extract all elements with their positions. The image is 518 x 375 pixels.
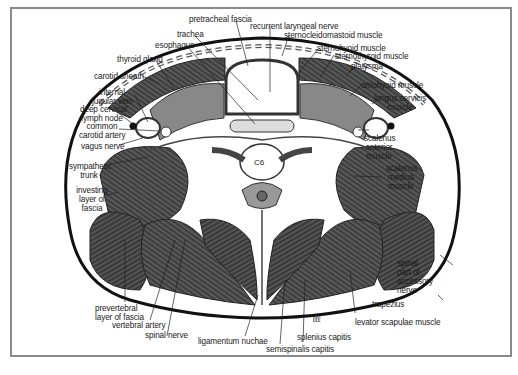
label-investing-layer-of-fascia: investinglayer offascia — [76, 186, 108, 213]
label-line: fascia — [82, 204, 103, 213]
label-sternocleidomastoid-muscle: sternocleidomastoid muscle — [284, 31, 382, 40]
label-omohyoid-muscle: omohyoid muscle — [361, 81, 423, 90]
label-common-carotid-artery: commoncarotid artery — [79, 122, 125, 140]
label-line: muscle — [366, 152, 391, 161]
label-c6-vertebra: C6 — [254, 158, 264, 167]
label-line: longus cervicis — [374, 94, 426, 103]
label-line: muscle — [388, 182, 413, 191]
label-line: sympathetic — [69, 162, 112, 171]
label-vagus-nerve: vagus nerve — [81, 142, 125, 151]
label-line: part of — [397, 268, 420, 277]
label-line: common — [87, 122, 118, 131]
label-line: layer of — [79, 195, 105, 204]
label-line: trunk — [80, 171, 98, 180]
label-scalenus-medius-muscle: scalenusmediusmuscle — [386, 164, 416, 191]
label-line: nerve — [397, 286, 417, 295]
label-recurrent-laryngeal-nerve: recurrent laryngeal nerve — [250, 22, 339, 31]
label-trapezius: trapezius — [372, 300, 404, 309]
label-line: spinal — [397, 259, 418, 268]
label-line: investing — [76, 186, 107, 195]
label-deep-cervical-lymph-node: deep cervicallymph node — [80, 105, 124, 123]
label-longus-cervicis-muscle: longus cervicismuscle — [372, 94, 428, 112]
label-platysma: platysma — [351, 62, 383, 71]
label-artist-mark: ℓℓℓ — [313, 315, 321, 324]
label-line: deep cervical — [80, 105, 127, 114]
label-scalenus-anterior-muscle: scalenusanteriormuscle — [364, 134, 394, 161]
label-ligamentum-nuchae: ligamentum nuchae — [198, 337, 268, 346]
label-line: internal — [99, 88, 125, 97]
label-line: carotid artery — [79, 131, 125, 140]
label-vertebral-artery: vertebral artery — [112, 321, 165, 330]
label-splenius-capitis: splenius capitis — [297, 333, 351, 342]
label-spinal-nerve: spinal nerve — [145, 331, 188, 340]
label-carotid-sheath: carotid sheath — [94, 72, 144, 81]
label-line: prevertebral — [95, 304, 138, 313]
label-thyroid-gland: thyroid gland — [117, 55, 163, 64]
label-internal-jugular-vein: internaljugular vein — [92, 88, 132, 106]
label-line: medius — [388, 173, 414, 182]
label-line: accessory — [397, 277, 433, 286]
label-line: anterior — [366, 143, 393, 152]
label-sympathetic-trunk: sympathetictrunk — [69, 162, 109, 180]
label-sternothyroid-muscle: sternothyroid muscle — [335, 52, 409, 61]
label-pretracheal-fascia: pretracheal fascia — [189, 15, 252, 24]
label-esophagus: esophagus — [155, 41, 194, 50]
label-prevertebral-layer-of-fascia: prevertebrallayer of fascia — [95, 304, 144, 322]
label-line: muscle — [387, 103, 412, 112]
label-spinal-part-of-accessory-nerve: spinalpart ofaccessorynerve — [397, 259, 433, 295]
label-levator-scapulae-muscle: levator scapulae muscle — [355, 318, 441, 327]
label-trachea: trachea — [177, 30, 204, 39]
label-line: scalenus — [386, 164, 418, 173]
label-semispinalis-capitis: semispinalis capitis — [266, 345, 334, 354]
label-line: scalenus — [364, 134, 396, 143]
